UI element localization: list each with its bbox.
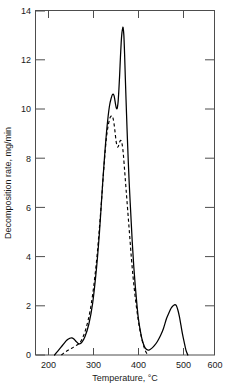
x-tick-marks (49, 348, 215, 355)
x-axis-title: Temperature, °C (92, 373, 158, 383)
y-tick-label-4: 4 (26, 252, 31, 262)
y-tick-label-6: 6 (26, 203, 31, 213)
x-tick-label-200: 200 (41, 360, 56, 370)
chart-figure: 200 300 400 500 600 0 2 4 6 8 10 12 14 T… (0, 0, 226, 386)
x-tick-label-500: 500 (176, 360, 191, 370)
y-axis-title: Decomposition rate, mg/min (3, 127, 13, 239)
y-tick-labels: 0 2 4 6 8 10 12 14 (21, 6, 31, 360)
y-tick-label-10: 10 (21, 104, 31, 114)
y-tick-label-14: 14 (21, 6, 31, 16)
y-tick-marks (36, 11, 45, 355)
y-tick-label-0: 0 (26, 350, 31, 360)
x-tick-label-400: 400 (131, 360, 146, 370)
decomposition-rate-line-chart: 200 300 400 500 600 0 2 4 6 8 10 12 14 T… (0, 0, 226, 386)
x-tick-label-300: 300 (86, 360, 101, 370)
x-tick-marks-top (49, 11, 184, 18)
y-tick-label-8: 8 (26, 154, 31, 164)
y-tick-marks-right (205, 60, 214, 306)
y-tick-label-2: 2 (26, 301, 31, 311)
x-tick-labels: 200 300 400 500 600 (41, 360, 223, 370)
solid-series-path (55, 27, 188, 355)
x-tick-label-600: 600 (207, 360, 222, 370)
y-tick-label-12: 12 (21, 55, 31, 65)
